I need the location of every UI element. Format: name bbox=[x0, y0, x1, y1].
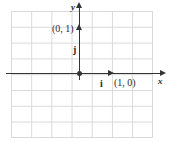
x-axis-line bbox=[6, 73, 164, 74]
vector-i-arrowhead-icon bbox=[108, 70, 114, 76]
point-label-0-1: (0, 1) bbox=[52, 24, 74, 34]
x-axis-arrowhead-icon bbox=[160, 70, 166, 76]
vector-label-i: i bbox=[100, 79, 103, 89]
vector-label-j: j bbox=[73, 45, 76, 55]
x-axis-label: x bbox=[158, 77, 163, 86]
y-axis-line bbox=[79, 6, 80, 80]
coordinate-plane-figure: y x (0, 1) (1, 0) j i bbox=[0, 0, 171, 143]
grid-background bbox=[11, 11, 153, 138]
origin-point-marker bbox=[77, 71, 82, 76]
vector-j-arrowhead-icon bbox=[76, 24, 82, 30]
point-label-1-0: (1, 0) bbox=[114, 78, 136, 88]
y-axis-label: y bbox=[71, 3, 75, 12]
y-axis-arrowhead-icon bbox=[76, 2, 82, 8]
